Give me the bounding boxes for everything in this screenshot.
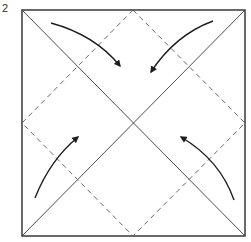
bottom-left-corner-arrow xyxy=(35,137,78,198)
origami-diagram xyxy=(0,0,251,242)
bottom-right-corner-arrow xyxy=(181,137,234,200)
top-left-corner-arrow xyxy=(51,23,120,66)
top-right-corner-arrow xyxy=(151,21,213,72)
